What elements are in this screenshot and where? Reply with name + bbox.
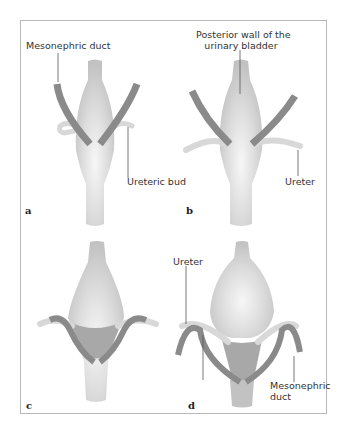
label-mesonephric-duct-a: Mesonephric duct <box>26 40 111 51</box>
panel-letter-d: d <box>188 400 195 411</box>
label-ureteric-bud: Ureteric bud <box>127 176 186 187</box>
label-mesonephric-line1: Mesonephric <box>270 380 331 391</box>
label-ureter-d: Ureter <box>173 256 203 267</box>
panel-letter-c: c <box>26 400 32 411</box>
label-posterior-wall: Posterior wall of the urinary bladder <box>196 29 286 51</box>
label-mesonephric-duct-d: Mesonephric duct <box>270 380 331 402</box>
label-posterior-wall-line1: Posterior wall of the <box>196 29 286 40</box>
label-ureter-b: Ureter <box>285 176 315 187</box>
panel-letter-b: b <box>186 205 193 216</box>
panel-letter-a: a <box>25 205 31 216</box>
panel-b-drawing <box>186 50 300 226</box>
panel-a-drawing <box>57 53 137 226</box>
panel-c-drawing <box>40 241 156 402</box>
label-posterior-wall-line2: urinary bladder <box>196 40 286 51</box>
embryology-diagram <box>0 0 347 433</box>
label-mesonephric-line2: duct <box>270 391 331 402</box>
